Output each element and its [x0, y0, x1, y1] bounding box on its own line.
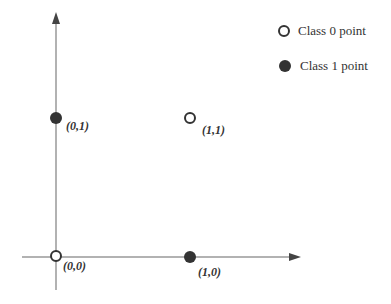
label-0-0: (0,0): [63, 259, 86, 274]
legend-hollow-circle-icon: [279, 26, 289, 36]
legend-class1-label: Class 1 point: [300, 58, 368, 74]
label-1-0: (1,0): [198, 265, 221, 280]
label-1-1: (1,1): [202, 123, 225, 138]
y-axis-arrow-icon: [52, 12, 60, 24]
x-axis-arrow-icon: [289, 253, 301, 261]
point-0-0: [51, 251, 61, 261]
point-0-1: [50, 112, 62, 124]
point-1-0: [184, 251, 196, 263]
legend-filled-circle-icon: [279, 60, 291, 72]
legend-class0-label: Class 0 point: [298, 23, 366, 39]
label-0-1: (0,1): [66, 119, 89, 134]
point-1-1: [185, 113, 195, 123]
xor-diagram: [0, 0, 391, 304]
